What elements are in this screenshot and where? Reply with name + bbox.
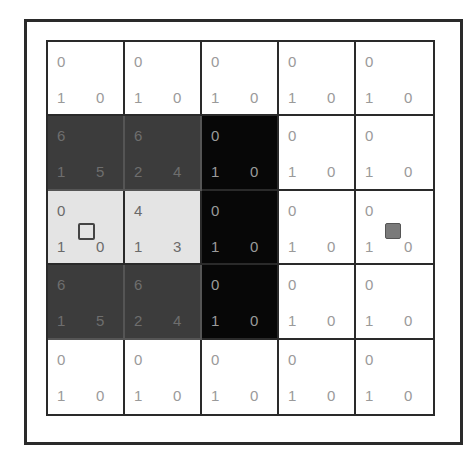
grid-cell-r4-c4: 010 (279, 265, 356, 339)
cell-bottom-right-value: 4 (173, 164, 181, 179)
grid-cell-r1-c1: 010 (48, 42, 125, 116)
cell-bottom-right-value: 0 (96, 388, 104, 403)
cell-top-value: 0 (288, 203, 296, 218)
cell-bottom-left-value: 1 (365, 388, 373, 403)
cell-top-value: 0 (211, 352, 219, 367)
cell-bottom-right-value: 0 (327, 164, 335, 179)
grid-cell-r2-c2: 624 (125, 116, 202, 190)
hollow-square-marker-icon (78, 223, 95, 240)
cell-bottom-right-value: 0 (96, 239, 104, 254)
filled-square-marker-icon (385, 223, 401, 239)
cell-bottom-right-value: 0 (327, 388, 335, 403)
cell-bottom-left-value: 1 (365, 239, 373, 254)
cell-top-value: 0 (288, 128, 296, 143)
grid-cell-r5-c3: 010 (202, 340, 279, 414)
cell-bottom-right-value: 0 (404, 164, 412, 179)
cell-bottom-left-value: 1 (134, 239, 142, 254)
grid-cell-r1-c2: 010 (125, 42, 202, 116)
cell-top-value: 6 (134, 128, 142, 143)
grid-cell-r5-c2: 010 (125, 340, 202, 414)
cell-bottom-right-value: 0 (327, 239, 335, 254)
cell-bottom-right-value: 0 (404, 90, 412, 105)
grid-cell-r2-c3: 010 (202, 116, 279, 190)
cell-top-value: 0 (288, 352, 296, 367)
grid-cell-r5-c1: 010 (48, 340, 125, 414)
cell-top-value: 4 (134, 203, 142, 218)
cell-top-value: 0 (365, 54, 373, 69)
cell-top-value: 0 (134, 54, 142, 69)
cell-bottom-left-value: 1 (211, 239, 219, 254)
cell-bottom-right-value: 0 (250, 388, 258, 403)
grid-cell-r3-c2: 413 (125, 191, 202, 265)
cell-bottom-left-value: 1 (57, 164, 65, 179)
cell-bottom-left-value: 1 (211, 164, 219, 179)
cell-bottom-right-value: 0 (404, 388, 412, 403)
grid-cell-r2-c4: 010 (279, 116, 356, 190)
grid-cell-r1-c3: 010 (202, 42, 279, 116)
grid-cell-r2-c5: 010 (356, 116, 433, 190)
grid-cell-r3-c3: 010 (202, 191, 279, 265)
cell-top-value: 6 (57, 277, 65, 292)
cell-top-value: 0 (365, 277, 373, 292)
cell-bottom-left-value: 1 (211, 90, 219, 105)
cell-bottom-left-value: 1 (57, 239, 65, 254)
cell-bottom-left-value: 1 (288, 90, 296, 105)
cell-bottom-left-value: 2 (134, 164, 142, 179)
cell-top-value: 6 (57, 128, 65, 143)
cell-top-value: 0 (211, 54, 219, 69)
grid-cell-r3-c1: 010 (48, 191, 125, 265)
cell-bottom-right-value: 5 (96, 164, 104, 179)
grid-cell-r2-c1: 615 (48, 116, 125, 190)
grid-cell-r5-c4: 010 (279, 340, 356, 414)
cell-bottom-right-value: 0 (250, 313, 258, 328)
grid: 0100100100100106156240100100100104130100… (46, 40, 435, 416)
cell-bottom-right-value: 4 (173, 313, 181, 328)
cell-top-value: 0 (365, 203, 373, 218)
cell-bottom-left-value: 1 (365, 164, 373, 179)
grid-cell-r1-c5: 010 (356, 42, 433, 116)
grid-cell-r3-c5: 010 (356, 191, 433, 265)
cell-bottom-left-value: 1 (365, 313, 373, 328)
cell-bottom-left-value: 1 (365, 90, 373, 105)
cell-bottom-right-value: 0 (327, 90, 335, 105)
grid-cell-r5-c5: 010 (356, 340, 433, 414)
grid-cell-r4-c3: 010 (202, 265, 279, 339)
cell-top-value: 6 (134, 277, 142, 292)
cell-bottom-right-value: 0 (327, 313, 335, 328)
cell-bottom-left-value: 1 (211, 388, 219, 403)
grid-cell-r4-c2: 624 (125, 265, 202, 339)
cell-bottom-left-value: 1 (211, 313, 219, 328)
cell-top-value: 0 (288, 54, 296, 69)
cell-bottom-left-value: 2 (134, 313, 142, 328)
cell-top-value: 0 (134, 352, 142, 367)
cell-bottom-right-value: 3 (173, 239, 181, 254)
cell-bottom-left-value: 1 (134, 388, 142, 403)
cell-bottom-right-value: 0 (250, 164, 258, 179)
cell-bottom-left-value: 1 (288, 388, 296, 403)
cell-bottom-right-value: 0 (404, 239, 412, 254)
cell-bottom-right-value: 0 (173, 90, 181, 105)
cell-bottom-right-value: 5 (96, 313, 104, 328)
cell-bottom-left-value: 1 (288, 239, 296, 254)
cell-top-value: 0 (57, 203, 65, 218)
cell-bottom-left-value: 1 (288, 313, 296, 328)
cell-bottom-left-value: 1 (288, 164, 296, 179)
cell-top-value: 0 (211, 203, 219, 218)
grid-cell-r3-c4: 010 (279, 191, 356, 265)
cell-bottom-right-value: 0 (96, 90, 104, 105)
cell-top-value: 0 (365, 128, 373, 143)
cell-top-value: 0 (288, 277, 296, 292)
grid-cell-r1-c4: 010 (279, 42, 356, 116)
cell-top-value: 0 (365, 352, 373, 367)
cell-top-value: 0 (211, 277, 219, 292)
cell-bottom-right-value: 0 (173, 388, 181, 403)
grid-cell-r4-c1: 615 (48, 265, 125, 339)
cell-top-value: 0 (57, 54, 65, 69)
grid-cell-r4-c5: 010 (356, 265, 433, 339)
cell-bottom-right-value: 0 (250, 90, 258, 105)
cell-bottom-right-value: 0 (404, 313, 412, 328)
cell-bottom-left-value: 1 (57, 388, 65, 403)
cell-bottom-left-value: 1 (57, 90, 65, 105)
cell-top-value: 0 (57, 352, 65, 367)
cell-top-value: 0 (211, 128, 219, 143)
